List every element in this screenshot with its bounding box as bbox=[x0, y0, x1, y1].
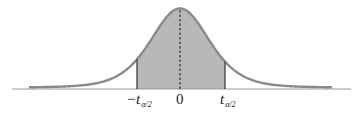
left-critical-value-label: −tα/2 bbox=[126, 92, 152, 109]
center-value: 0 bbox=[176, 91, 184, 107]
right-critical-value-symbol: t bbox=[220, 91, 224, 107]
left-critical-value-symbol: −t bbox=[126, 91, 140, 107]
shaded-central-region bbox=[137, 9, 225, 90]
center-label: 0 bbox=[176, 92, 184, 107]
right-critical-value-label: tα/2 bbox=[220, 92, 236, 109]
t-distribution-figure: −tα/2 0 tα/2 bbox=[0, 0, 360, 113]
left-critical-value-subscript: α/2 bbox=[141, 100, 151, 109]
right-critical-value-subscript: α/2 bbox=[225, 100, 235, 109]
